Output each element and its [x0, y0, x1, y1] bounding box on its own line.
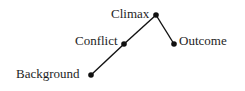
node-label-outcome: Outcome — [179, 34, 227, 47]
node-dot-conflict — [121, 41, 127, 47]
node-label-conflict: Conflict — [75, 34, 118, 47]
plot-structure-diagram: Background Conflict Climax Outcome — [0, 0, 245, 91]
node-label-background: Background — [16, 67, 80, 80]
node-dot-climax — [153, 12, 159, 18]
node-dot-outcome — [171, 41, 177, 47]
edge-climax-outcome — [156, 15, 174, 44]
node-dot-background — [88, 72, 94, 78]
node-label-climax: Climax — [111, 7, 149, 20]
edge-background-conflict — [91, 44, 124, 75]
